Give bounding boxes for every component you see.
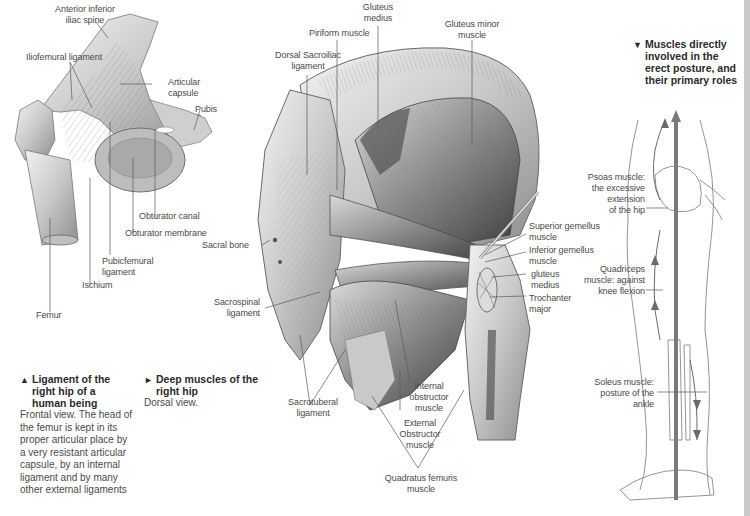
gravity-axis-line [674, 120, 678, 500]
label-obturator-canal: Obturator canal [139, 211, 200, 222]
caption-body-hip-ligaments: Frontal view. The head of the femur is k… [20, 409, 132, 497]
label-quadratus-femuris-muscle: Quadratus femuris muscle [383, 473, 459, 495]
label-femur: Femur [36, 310, 62, 321]
label-sacrospinal-ligament: Sacrospinal ligament [210, 297, 260, 319]
caption-body-deep-muscles: Dorsal view. [144, 397, 198, 410]
page-edge-bar [744, 0, 750, 516]
anatomy-page: Anterior inferior iliac spine Iliofemura… [0, 0, 750, 516]
label-piriform-muscle: Piriform muscle [309, 28, 370, 39]
label-iliofemoral-ligament: Iliofemural ligament [26, 52, 102, 63]
label-psoas-muscle: Psoas muscle: the excessive extension of… [575, 172, 645, 216]
label-quadriceps-muscle: Quadriceps muscle: against knee flexion [575, 264, 645, 297]
label-anterior-inferior-iliac-spine: Anterior inferior iliac spine [40, 4, 130, 26]
triangle-right-icon: ► [144, 374, 156, 386]
label-ischium: Ischium [82, 280, 112, 291]
label-external-obstructor-muscle: External Obstructor muscle [397, 418, 443, 451]
triangle-down-icon: ▼ [633, 39, 645, 51]
caption-title-erect-posture: ▼Muscles directly involved in the erect … [633, 38, 737, 86]
label-obturator-membrane: Obturator membrane [125, 228, 207, 239]
label-gluteus-medius-side: gluteus medius [531, 269, 559, 291]
label-pubis: Pubis [195, 104, 217, 115]
label-sacrotuberal-ligament: Sacrotuberal ligament [285, 397, 341, 419]
caption-title-hip-ligaments: ▲Ligament of the right hip of a human be… [20, 373, 110, 409]
deep-muscles-illustration [258, 48, 539, 440]
label-pubicfemoral-ligament: Pubicfemural ligament [102, 256, 153, 278]
label-internal-obstructor-muscle: Internal obstructor muscle [406, 381, 452, 414]
label-gluteus-medius-top: Gluteus medius [355, 2, 401, 24]
label-dorsal-sacroiliac-ligament: Dorsal Sacroiliac ligament [275, 50, 341, 72]
label-gluteus-minor-muscle: Gluteus minor muscle [440, 19, 504, 41]
label-soleus-muscle: Soleus muscle: posture of the ankle [575, 377, 654, 410]
label-sacral-bone: Sacral bone [202, 240, 249, 251]
label-trochanter-major: Trochanter major [529, 293, 571, 315]
label-articular-capsule: Articular capsule [168, 77, 200, 99]
label-superior-gemellus-muscle: Superior gemellus muscle [529, 221, 600, 243]
caption-title-deep-muscles: ►Deep muscles of the right hip [144, 373, 258, 397]
triangle-up-icon: ▲ [20, 374, 32, 386]
